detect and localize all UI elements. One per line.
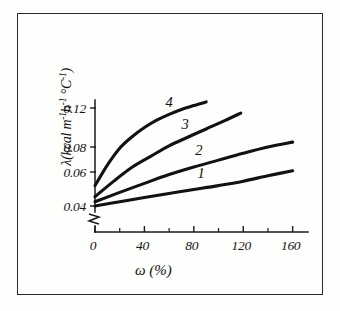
x-tick-label: 0: [90, 238, 97, 253]
curves-group: [95, 102, 293, 206]
x-axis-title: ω (%): [135, 262, 172, 279]
x-tick-label: 80: [185, 238, 198, 253]
curve-label-1: 1: [198, 165, 205, 181]
y-axis-title-text: λ(kcal m-1h-1 °C-1): [59, 68, 74, 166]
data-curve-1: [95, 171, 293, 206]
y-axis-title: λ(kcal m-1h-1 °C-1): [57, 27, 75, 207]
y-axis-break-mark: [89, 214, 99, 224]
curve-label-2: 2: [195, 142, 202, 158]
x-tick-label: 160: [281, 238, 301, 253]
data-curve-4: [95, 102, 206, 186]
x-tick-label: 120: [232, 238, 252, 253]
x-axis-title-unit: (%): [149, 262, 172, 278]
ticks-group: [90, 108, 293, 232]
x-axis-title-symbol: ω: [135, 262, 146, 278]
curve-label-4: 4: [165, 94, 172, 110]
curve-label-3: 3: [181, 116, 189, 132]
figure-root: 0.040.060.080.1204080120160 1234 λ(kcal …: [0, 0, 340, 311]
x-tick-label: 40: [136, 238, 149, 253]
